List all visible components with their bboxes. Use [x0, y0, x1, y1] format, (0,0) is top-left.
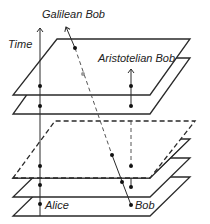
- aristotelian-bob-event-2: [129, 104, 133, 108]
- galilean-bob-label: Galilean Bob: [42, 8, 105, 20]
- bob-event-bottom: [129, 203, 133, 207]
- alice-event-2: [38, 104, 42, 108]
- spacetime-diagram: Time Galilean Bob Aristotelian Bob Alice…: [0, 0, 210, 224]
- alice-label: Alice: [44, 199, 69, 211]
- galilean-bob-event-top: [73, 46, 77, 50]
- galilean-bob-event-3: [110, 153, 114, 157]
- alice-event-4: [38, 183, 42, 187]
- galilean-bob-event-4: [120, 180, 124, 184]
- alice-event-top: [38, 84, 42, 88]
- aristotelian-bob-event-top: [129, 84, 133, 88]
- alice-event-5: [38, 202, 42, 206]
- bob-label: Bob: [135, 199, 155, 211]
- time-label: Time: [8, 38, 32, 50]
- aristotelian-bob-event-3: [129, 164, 133, 168]
- aristotelian-bob-label: Aristotelian Bob: [97, 52, 175, 64]
- aristotelian-bob-event-4: [129, 185, 133, 189]
- alice-event-3: [38, 164, 42, 168]
- galilean-bob-event-grey: [81, 72, 85, 76]
